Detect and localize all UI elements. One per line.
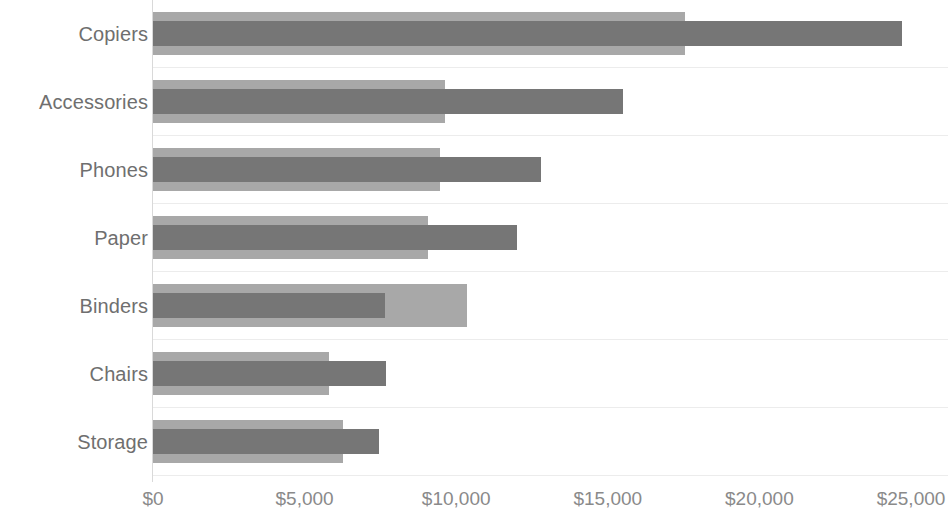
category-axis-label: Storage (77, 408, 148, 476)
category-row: Phones (0, 136, 948, 204)
value-axis-tick-label: $5,000 (276, 488, 334, 510)
category-row: Copiers (0, 0, 948, 68)
plot-area: CopiersAccessoriesPhonesPaperBindersChai… (0, 0, 948, 482)
bar-foreground-measure[interactable] (153, 21, 902, 46)
bar-foreground-measure[interactable] (153, 361, 386, 386)
category-row: Paper (0, 204, 948, 272)
category-row: Chairs (0, 340, 948, 408)
bullet-bar-chart: CopiersAccessoriesPhonesPaperBindersChai… (0, 0, 948, 522)
bar-foreground-measure[interactable] (153, 157, 541, 182)
value-axis-tick-label: $25,000 (877, 488, 946, 510)
category-axis-label: Accessories (39, 68, 148, 136)
category-axis-label: Phones (80, 136, 148, 204)
value-axis-tick-label: $10,000 (422, 488, 491, 510)
value-axis-tick-label: $15,000 (573, 488, 642, 510)
category-row: Storage (0, 408, 948, 476)
category-row: Accessories (0, 68, 948, 136)
bar-foreground-measure[interactable] (153, 429, 379, 454)
bar-foreground-measure[interactable] (153, 89, 623, 114)
category-row: Binders (0, 272, 948, 340)
category-axis-label: Chairs (90, 340, 148, 408)
bar-foreground-measure[interactable] (153, 225, 517, 250)
category-axis-label: Binders (79, 272, 148, 340)
value-axis-tick-label: $20,000 (725, 488, 794, 510)
value-axis-tick-label: $0 (142, 488, 163, 510)
category-axis-label: Paper (94, 204, 148, 272)
category-axis-label: Copiers (78, 0, 148, 68)
value-axis-labels: $0$5,000$10,000$15,000$20,000$25,000 (0, 482, 948, 522)
bar-foreground-measure[interactable] (153, 293, 385, 318)
